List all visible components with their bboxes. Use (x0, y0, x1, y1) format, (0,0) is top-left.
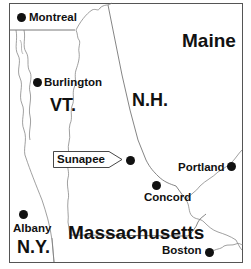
city-dot-portland (227, 162, 236, 171)
city-label-sunapee: Sunapee (57, 153, 105, 165)
city-dot-albany (19, 210, 28, 219)
city-label-albany: Albany (13, 223, 51, 235)
city-label-portland: Portland (178, 162, 225, 174)
city-dot-montreal (17, 13, 26, 22)
city-dot-sunapee (126, 156, 135, 165)
state-label-vt: VT. (50, 96, 76, 114)
city-label-concord: Concord (144, 192, 191, 204)
border-vt-nh (67, 30, 79, 235)
lake-champlain-east (24, 30, 31, 140)
border-ma-ny (52, 238, 54, 262)
city-dot-boston (205, 248, 214, 257)
city-dot-concord (152, 181, 161, 190)
new-england-map: VT. N.H. Maine N.Y. Massachusetts Montre… (0, 0, 251, 269)
maine-coast (186, 150, 242, 200)
city-dot-burlington (33, 78, 42, 87)
state-label-ma: Massachusetts (68, 223, 204, 242)
sunapee-callout: Sunapee (53, 151, 123, 168)
city-label-montreal: Montreal (29, 12, 77, 24)
state-label-maine: Maine (182, 31, 236, 50)
state-label-ny: N.Y. (17, 238, 50, 256)
city-label-boston: Boston (162, 245, 202, 257)
state-label-nh: N.H. (132, 91, 168, 109)
border-nh-north (76, 3, 112, 30)
city-label-burlington: Burlington (44, 77, 102, 89)
